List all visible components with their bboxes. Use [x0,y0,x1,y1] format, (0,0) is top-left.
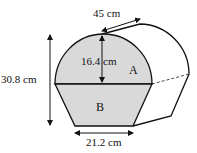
prism-diagram: 45 cm 16.4 cm 30.8 cm 21.2 cm A B [0,0,197,153]
region-a-label: A [129,63,138,77]
region-b-label: B [96,100,104,114]
total-height-label: 30.8 cm [1,73,37,85]
length-label: 45 cm [93,7,121,19]
semicircle-height-label: 16.4 cm [81,55,117,67]
base-width-label: 21.2 cm [86,136,122,148]
